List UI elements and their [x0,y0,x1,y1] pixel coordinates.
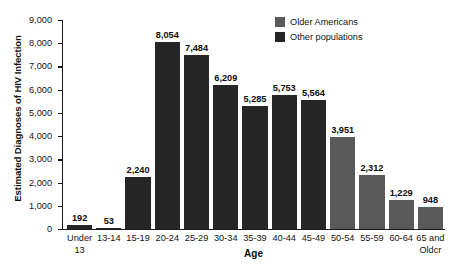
y-axis-tick-label: 8,000 [29,38,52,48]
bar: 192 [67,225,92,229]
y-axis-tick: 8,000 [58,43,62,44]
y-axis-tick-label: 9,000 [29,15,52,25]
bar-value-label: 3,951 [331,125,354,135]
bar-value-label: 53 [104,216,114,226]
bar: 5,753 [272,95,297,229]
x-axis-tick-label: 30-34 [211,233,240,245]
bar: 948 [418,207,443,229]
x-axis-tick-label: 15-19 [123,233,152,245]
bar-value-label: 192 [72,213,87,223]
bar-value-label: 5,285 [243,94,266,104]
chart-legend: Older AmericansOther populations [275,15,363,45]
bar: 5,285 [242,106,267,229]
hiv-diagnoses-bar-chart: Estimated Diagnoses of HIV Infection 9,0… [0,0,450,277]
bar-value-label: 6,209 [214,73,237,83]
bar: 3,951 [330,137,355,229]
y-axis-tick-label: 7,000 [29,61,52,71]
y-axis-tick: 2,000 [58,183,62,184]
y-axis-tick: 0 [58,229,62,230]
bar-value-label: 1,229 [390,188,413,198]
y-axis-tick-label: 3,000 [29,154,52,164]
legend-swatch [275,32,285,42]
x-axis-tick-label: 35-39 [240,233,269,245]
bar-value-label: 5,753 [273,83,296,93]
y-axis-tick: 4,000 [58,136,62,137]
y-axis-tick-label: 4,000 [29,131,52,141]
y-axis-tick-label: 1,000 [29,201,52,211]
x-axis-tick-label: 25-29 [182,233,211,245]
y-axis-tick: 7,000 [58,66,62,67]
bar-value-label: 948 [423,195,438,205]
x-axis-line [62,229,445,230]
y-axis-title: Estimated Diagnoses of HIV Infection [12,9,23,229]
bar-value-label: 5,564 [302,88,325,98]
legend-label: Other populations [290,32,363,42]
y-axis-tick-label: 6,000 [29,85,52,95]
x-axis-tick-label: 20-24 [153,233,182,245]
y-axis-tick: 6,000 [58,90,62,91]
x-axis-title: Age [62,248,445,259]
legend-label: Older Americans [290,17,358,27]
y-axis-line [62,20,63,229]
x-axis-tick-label: 13-14 [94,233,123,245]
bar-value-label: 2,312 [360,163,383,173]
x-axis-tick-label: 50-54 [328,233,357,245]
x-axis-tick-label: 40-44 [270,233,299,245]
y-axis-tick: 9,000 [58,20,62,21]
bar-value-label: 2,240 [127,165,150,175]
x-axis-tick-label: 55-59 [357,233,386,245]
y-axis-tick-label: 0 [47,224,52,234]
legend-swatch [275,17,285,27]
bar-value-label: 7,484 [185,43,208,53]
bar: 2,312 [359,175,384,229]
bar: 7,484 [184,55,209,229]
legend-entry: Other populations [275,30,363,43]
y-axis-tick: 5,000 [58,113,62,114]
y-axis-tick: 1,000 [58,206,62,207]
bar: 2,240 [125,177,150,229]
y-axis-tick-label: 2,000 [29,178,52,188]
plot-area: 9,0008,0007,0006,0005,0004,0003,0002,000… [62,20,445,229]
bar: 6,209 [213,85,238,229]
y-axis-tick: 3,000 [58,159,62,160]
bar: 1,229 [389,200,414,229]
legend-entry: Older Americans [275,15,363,28]
bar-value-label: 8,054 [156,30,179,40]
x-axis-tick-label: 60-64 [387,233,416,245]
bar: 53 [96,228,121,230]
x-axis-tick-label: 45-49 [299,233,328,245]
bar: 5,564 [301,100,326,229]
bar: 8,054 [155,42,180,229]
y-axis-tick-label: 5,000 [29,108,52,118]
